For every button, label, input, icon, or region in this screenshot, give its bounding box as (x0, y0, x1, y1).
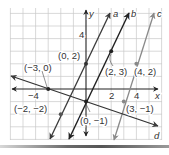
point-label-4-2: (4, 2) (134, 66, 156, 77)
tick-label-x2: 2 (109, 90, 114, 101)
coordinate-graph: y x a b c d −4 2 4 4 (0, 2) (−3, 0) (2, … (0, 0, 169, 145)
point-0-neg1 (84, 100, 88, 104)
x-axis-label: x (154, 90, 161, 101)
leader-lines (42, 54, 113, 112)
line-c-label: c (157, 8, 162, 19)
line-a-label: a (113, 8, 118, 19)
point-label-0-2: (0, 2) (58, 50, 80, 61)
line-b-label: b (131, 8, 136, 19)
point-label-0-neg1: (0, −1) (80, 115, 108, 126)
line-d-label: d (154, 130, 160, 141)
point-label-neg2-neg2: (−2, −2) (14, 103, 47, 114)
point-label-3-neg1: (3, −1) (126, 103, 154, 114)
tick-label-x4: 4 (134, 90, 139, 101)
point-label-2-3: (2, 3) (105, 66, 127, 77)
point-neg2-neg2 (59, 112, 63, 116)
point-0-2 (84, 62, 88, 66)
point-2-3 (109, 49, 113, 53)
bottom-divider (0, 145, 169, 148)
tick-label-y4: 4 (79, 29, 84, 40)
tick-label-neg4: −4 (28, 90, 39, 101)
point-neg3-0 (46, 87, 50, 91)
point-label-neg3-0: (−3, 0) (24, 62, 52, 73)
